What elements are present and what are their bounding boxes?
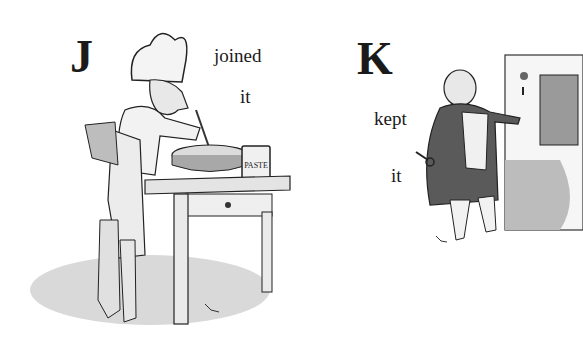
man-leg-shape — [450, 200, 470, 240]
man-waistcoat-shape — [462, 112, 488, 170]
pie-dish-shape — [172, 155, 248, 172]
man-head-shape — [444, 70, 476, 106]
object-it-left: it — [240, 87, 251, 106]
door-shadow-shape — [505, 160, 570, 230]
key-stem-shape — [416, 152, 428, 160]
apron-ruffle-shape — [85, 122, 118, 165]
keyhole-shape — [522, 87, 524, 95]
chef-hat-shape — [131, 34, 186, 82]
letter-k: K — [357, 36, 393, 82]
table-leg-shape-2 — [262, 212, 272, 292]
signature-monogram-2 — [436, 236, 447, 242]
table-top-shape — [145, 176, 290, 194]
letter-j: J — [70, 34, 93, 80]
jar-label-text: PASTE — [244, 161, 268, 170]
table-leg-shape — [174, 194, 188, 324]
drawer-knob-shape — [225, 202, 231, 208]
door-window-shape — [540, 75, 578, 145]
verb-joined: joined — [214, 46, 262, 65]
door-knob-shape — [520, 72, 528, 80]
object-it-right: it — [391, 166, 402, 185]
man-leg-shape-2 — [478, 196, 496, 232]
floor-shadow — [30, 255, 270, 325]
chef-leg-shape — [98, 220, 120, 318]
verb-kept: kept — [374, 109, 407, 128]
